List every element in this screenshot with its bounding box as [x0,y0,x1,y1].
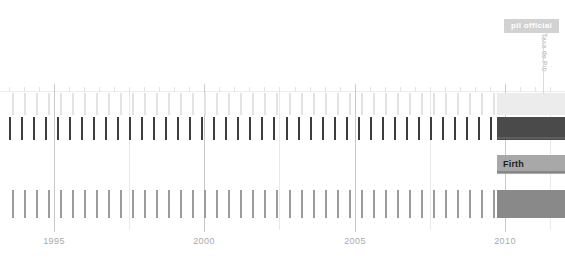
band-inner-rule [497,171,565,173]
rug-tick [409,93,411,115]
rug-tick [264,93,266,115]
rug-tick [433,190,435,218]
rug-tick [325,93,327,115]
x-axis-label-2005: 2005 [344,236,366,246]
rug-tick [228,93,230,115]
rug-tick [96,190,98,218]
top-axis-tick [249,87,250,92]
rug-tick [373,190,375,218]
top-axis-tick [415,87,416,92]
status-badge: pil official [504,19,559,33]
rug-row-2 [0,117,565,140]
rug-tick [12,93,14,115]
x-axis-label-1995: 1995 [43,236,65,246]
rug-tick [81,117,83,140]
top-axis-tick [39,87,40,92]
x-axis-label-2000: 2000 [193,236,215,246]
band-row-2 [497,117,565,140]
rug-tick [433,93,435,115]
top-axis-tick [310,87,311,92]
rug-tick [346,117,348,140]
rug-tick [36,190,38,218]
top-axis-tick [174,87,175,92]
rug-tick [313,93,315,115]
rug-row-4 [0,190,565,218]
top-axis-tick [535,87,536,92]
rug-tick [12,190,14,218]
rug-tick [132,93,134,115]
rug-tick [96,93,98,115]
top-axis-tick [24,87,25,92]
rug-tick [252,93,254,115]
rug-tick [225,117,227,140]
top-axis-tick [189,87,190,92]
rug-tick [120,190,122,218]
rug-tick [397,93,399,115]
rug-tick [457,190,459,218]
rug-tick [370,117,372,140]
rug-tick [286,117,288,140]
top-axis-tick [84,87,85,92]
rug-tick [481,93,483,115]
rug-tick [361,190,363,218]
x-axis-label-2010: 2010 [494,236,516,246]
rug-tick [204,190,206,218]
rug-tick [201,117,203,140]
rug-tick [358,117,360,140]
rug-tick [216,93,218,115]
rug-tick [289,93,291,115]
rug-tick [168,190,170,218]
rug-tick [445,93,447,115]
rug-tick [144,190,146,218]
rug-tick [156,93,158,115]
rug-tick [493,93,495,115]
rug-tick [301,190,303,218]
top-axis-tick [295,87,296,92]
rug-tick [24,93,26,115]
rug-tick [289,190,291,218]
rug-tick [216,190,218,218]
rug-tick [57,117,59,140]
rug-tick [469,93,471,115]
rug-tick [397,190,399,218]
rug-tick [24,190,26,218]
rug-row-1 [0,93,565,115]
top-axis-tick [219,87,220,92]
rug-tick [469,190,471,218]
band-row-1 [497,93,565,115]
rug-tick [72,93,74,115]
rug-tick [334,117,336,140]
timeline-chart: Firth 1995200020052010 pil official Taxa… [0,0,565,264]
rug-tick [490,117,492,140]
rug-tick [454,117,456,140]
rug-tick [382,117,384,140]
rug-tick [48,190,50,218]
rug-tick [361,93,363,115]
top-axis-tick [475,87,476,92]
rug-tick [394,117,396,140]
rug-tick [108,93,110,115]
rug-tick [240,93,242,115]
top-axis-tick [99,87,100,92]
rug-tick [406,117,408,140]
rug-tick [45,117,47,140]
rug-tick [493,190,495,218]
rug-tick [481,190,483,218]
rug-tick [337,93,339,115]
rug-tick [156,190,158,218]
rug-tick [117,117,119,140]
top-axis-tick [400,87,401,92]
rug-tick [105,117,107,140]
rug-tick [192,190,194,218]
rug-tick [36,93,38,115]
top-axis-tick [234,87,235,92]
rug-tick [72,190,74,218]
rug-tick [273,117,275,140]
rug-tick [153,117,155,140]
rug-tick [192,93,194,115]
rug-tick [141,117,143,140]
rug-tick [180,190,182,218]
top-axis-tick [490,87,491,92]
rug-tick [373,93,375,115]
rug-tick [48,93,50,115]
